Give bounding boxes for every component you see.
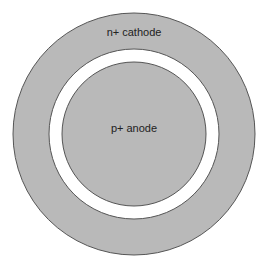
anode-label: p+ anode [111,122,157,134]
cathode-label: n+ cathode [107,26,162,38]
diagram-canvas: n+ cathode p+ anode [0,0,268,269]
p-anode-region [62,62,206,206]
diode-cross-section-diagram: n+ cathode p+ anode [0,0,268,269]
